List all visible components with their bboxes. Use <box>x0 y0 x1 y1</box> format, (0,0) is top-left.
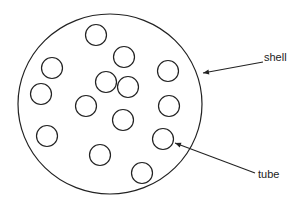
tube-circle <box>76 96 97 117</box>
tube-circle <box>31 84 52 105</box>
shell-arrowhead-icon <box>203 69 209 74</box>
tube-circle <box>37 126 58 147</box>
tube-circle <box>159 96 180 117</box>
tube-circle <box>153 129 174 150</box>
tube-circle <box>90 145 111 166</box>
tube-circle <box>113 110 134 131</box>
tube-arrowhead-icon <box>175 143 181 148</box>
tube-circle <box>114 47 135 68</box>
tube-circle <box>96 72 117 93</box>
tube-group <box>31 25 180 184</box>
shell-tube-diagram: shell tube <box>0 0 303 202</box>
tube-label: tube <box>258 168 279 180</box>
tube-circle <box>86 25 107 46</box>
annotation-group: shell tube <box>175 51 287 180</box>
tube-circle <box>42 58 63 79</box>
tube-circle <box>158 61 179 82</box>
tube-pointer-arrow <box>175 143 255 173</box>
tube-circle <box>118 77 139 98</box>
shell-pointer-arrow <box>203 62 263 73</box>
shell-label: shell <box>264 51 287 63</box>
tube-circle <box>132 163 153 184</box>
